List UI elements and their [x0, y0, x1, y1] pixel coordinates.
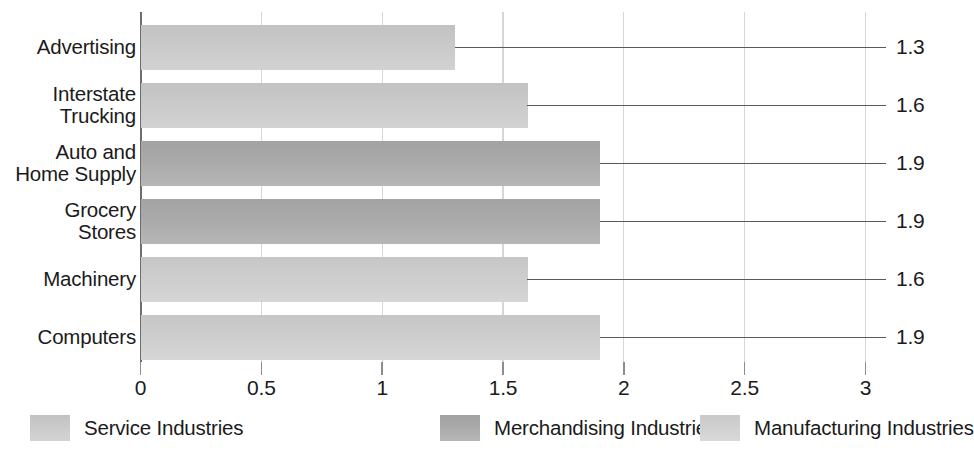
- plot-area: 00.511.522.53 Advertising1.3Interstate T…: [0, 0, 942, 400]
- legend-swatch-icon: [440, 415, 480, 441]
- category-label: Computers: [38, 326, 136, 348]
- chart-legend: Service IndustriesMerchandising Industri…: [0, 408, 942, 463]
- x-tick-mark: [744, 362, 745, 375]
- legend-item[interactable]: Manufacturing Industries: [700, 408, 974, 448]
- legend-label: Manufacturing Industries: [754, 416, 974, 440]
- gridline: [865, 12, 866, 362]
- x-tick-label: 2: [594, 376, 654, 400]
- bar-value-label: 1.9: [896, 209, 925, 233]
- bar-value-label: 1.6: [896, 93, 925, 117]
- x-tick-label: 1: [352, 376, 412, 400]
- category-label: Auto and Home Supply: [15, 141, 136, 185]
- x-tick-mark: [865, 362, 866, 375]
- leader-line: [527, 279, 886, 281]
- bar-value-label: 1.9: [896, 151, 925, 175]
- bar-value-label: 1.9: [896, 325, 925, 349]
- bar: [141, 315, 600, 360]
- legend-label: Merchandising Industries: [494, 416, 717, 440]
- legend-swatch-icon: [30, 415, 70, 441]
- leader-line: [600, 221, 886, 223]
- gridline: [623, 12, 624, 362]
- legend-item[interactable]: Service Industries: [30, 408, 243, 448]
- x-tick-mark: [261, 362, 262, 375]
- bar-value-label: 1.6: [896, 267, 925, 291]
- x-tick-label: 0: [111, 376, 171, 400]
- bar: [141, 141, 600, 186]
- category-label: Advertising: [37, 36, 136, 58]
- bar: [141, 25, 455, 70]
- x-tick-mark: [140, 362, 141, 375]
- x-tick-label: 0.5: [231, 376, 291, 400]
- leader-line: [600, 337, 886, 339]
- legend-label: Service Industries: [84, 416, 243, 440]
- x-tick-label: 2.5: [715, 376, 775, 400]
- category-label: Machinery: [43, 268, 136, 290]
- leader-line: [455, 47, 886, 49]
- x-tick-label: 3: [836, 376, 896, 400]
- legend-item[interactable]: Merchandising Industries: [440, 408, 717, 448]
- bar: [141, 199, 600, 244]
- category-label: Grocery Stores: [64, 199, 136, 243]
- x-tick-mark: [502, 362, 503, 375]
- x-tick-mark: [623, 362, 624, 375]
- x-tick-mark: [381, 362, 382, 375]
- category-label: Interstate Trucking: [53, 83, 136, 127]
- bar: [141, 257, 528, 302]
- leader-line: [600, 163, 886, 165]
- bar-value-label: 1.3: [896, 35, 925, 59]
- gridline: [744, 12, 745, 362]
- bar: [141, 83, 528, 128]
- gridline: [502, 12, 503, 362]
- x-tick-label: 1.5: [473, 376, 533, 400]
- legend-swatch-icon: [700, 415, 740, 441]
- leader-line: [527, 105, 886, 107]
